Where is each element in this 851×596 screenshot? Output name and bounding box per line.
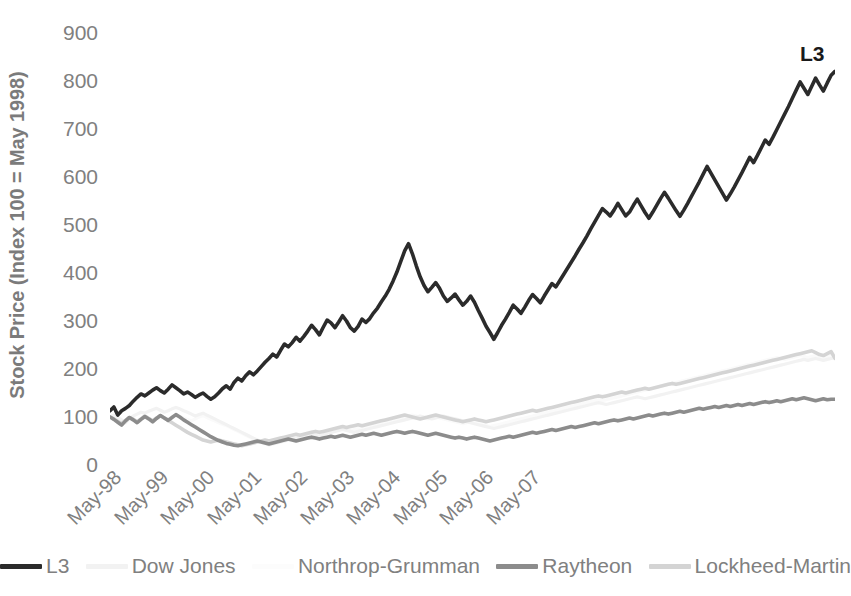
- y-tick-600: 600: [63, 165, 98, 189]
- y-tick-900: 900: [63, 21, 98, 45]
- legend-swatch-lockheed-martin: [649, 564, 691, 569]
- legend-swatch-dow-jones: [86, 564, 128, 569]
- legend-gap: [632, 566, 648, 567]
- series-line-northrop-grumman: [110, 356, 835, 445]
- y-tick-700: 700: [63, 117, 98, 141]
- legend-item-lockheed-martin[interactable]: Lockheed-Martin: [649, 554, 851, 578]
- y-axis-tick-labels: 9008007006005004003002001000: [34, 0, 106, 470]
- legend-swatch-northrop-grumman: [252, 564, 294, 569]
- y-tick-800: 800: [63, 69, 98, 93]
- legend-item-l3[interactable]: L3: [0, 554, 69, 578]
- legend-swatch-raytheon: [496, 564, 538, 569]
- legend-label: L3: [46, 554, 69, 578]
- stock-price-line-chart: Stock Price (Index 100 = May 1998) 90080…: [0, 0, 851, 596]
- y-tick-100: 100: [63, 405, 98, 429]
- x-axis-tick-labels: May-98May-99May-00May-01May-02May-03May-…: [0, 466, 851, 546]
- legend-label: Raytheon: [542, 554, 632, 578]
- y-tick-300: 300: [63, 309, 98, 333]
- legend-label: Dow Jones: [132, 554, 236, 578]
- series-lines: [110, 18, 835, 466]
- y-axis-title: Stock Price (Index 100 = May 1998): [0, 0, 34, 470]
- legend-label: Northrop-Grumman: [298, 554, 480, 578]
- series-line-l3: [110, 71, 835, 415]
- legend-gap: [480, 566, 496, 567]
- legend-item-dow-jones[interactable]: Dow Jones: [86, 554, 236, 578]
- legend-item-raytheon[interactable]: Raytheon: [496, 554, 632, 578]
- y-tick-500: 500: [63, 213, 98, 237]
- legend-item-northrop-grumman[interactable]: Northrop-Grumman: [252, 554, 480, 578]
- legend: L3Dow JonesNorthrop-GrummanRaytheonLockh…: [0, 548, 851, 584]
- plot-area: [110, 18, 835, 466]
- series-line-lockheed-martin: [110, 351, 835, 446]
- y-tick-400: 400: [63, 261, 98, 285]
- y-tick-200: 200: [63, 357, 98, 381]
- legend-swatch-l3: [0, 564, 42, 569]
- l3-series-annotation: L3: [800, 42, 825, 66]
- legend-gap: [69, 566, 85, 567]
- legend-label: Lockheed-Martin: [695, 554, 851, 578]
- legend-gap: [236, 566, 252, 567]
